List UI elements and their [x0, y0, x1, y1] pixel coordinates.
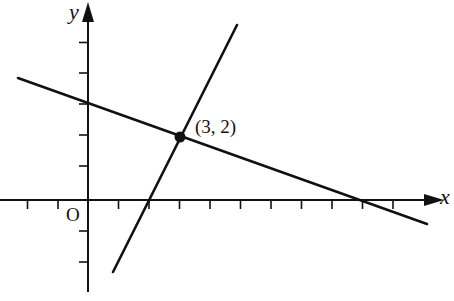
intersection-label: (3, 2) [195, 117, 236, 136]
y-axis-arrow-icon [82, 2, 94, 22]
x-axis-label: x [440, 186, 450, 208]
y-axis-ticks [79, 43, 88, 263]
intersection-point [175, 132, 186, 143]
y-axis-label: y [69, 1, 79, 23]
x-axis-ticks [28, 200, 394, 209]
coordinate-diagram: y x O (3, 2) [0, 0, 454, 301]
origin-label: O [66, 205, 80, 224]
shallow-line [18, 78, 427, 224]
diagram-graphics [0, 0, 454, 301]
